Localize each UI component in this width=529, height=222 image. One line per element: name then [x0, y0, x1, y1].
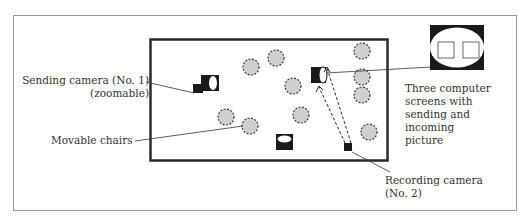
recording-camera-label: Recording camera (No. 2) [385, 174, 483, 200]
sending-camera-label: Sending camera (No. 1) (zoomable) [18, 74, 149, 100]
sending-camera-icon [193, 75, 219, 93]
chair-icon [361, 124, 377, 140]
movable-chairs-text: Movable chairs [51, 134, 133, 146]
recording-camera-label-line2: (No. 2) [385, 187, 483, 200]
movable-chairs [218, 43, 377, 140]
sending-camera-label-line1: Sending camera (No. 1) [18, 74, 149, 87]
sending-camera-label-line2: (zoomable) [18, 87, 149, 100]
movable-chairs-label: Movable chairs [51, 134, 133, 147]
screens-label: Three computer screens with sending and … [405, 82, 491, 147]
screens-label-line2: screens with [405, 95, 491, 108]
chair-icon [285, 78, 301, 94]
table-icon [276, 134, 293, 150]
chair-icon [293, 107, 309, 123]
screens-label-line1: Three computer [405, 82, 491, 95]
screens-label-line3: sending and [405, 108, 491, 121]
chair-icon [243, 59, 259, 75]
screens-label-line4: incoming [405, 121, 491, 134]
screens-label-line5: picture [405, 134, 491, 147]
screen-stand-icon [311, 67, 327, 83]
chair-icon [354, 43, 370, 59]
computer-screens-icon [430, 25, 484, 70]
chair-icon [242, 118, 258, 134]
chair-icon [268, 50, 284, 66]
recording-camera-label-line1: Recording camera [385, 174, 483, 187]
recording-camera-icon [344, 143, 352, 151]
chair-icon [218, 109, 234, 125]
chair-icon [354, 87, 370, 103]
diagram: Sending camera (No. 1) (zoomable) Movabl… [0, 0, 529, 222]
